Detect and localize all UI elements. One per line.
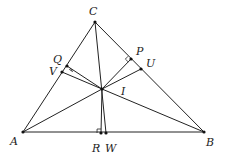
segment-BI (102, 89, 204, 132)
segment-IP (102, 59, 131, 89)
point-Q (65, 64, 68, 67)
point-A (21, 130, 24, 133)
segment-IR (101, 89, 102, 133)
segment-CW (95, 22, 106, 133)
point-I (100, 87, 103, 90)
label-W: W (105, 142, 118, 155)
label-C: C (89, 5, 98, 18)
point-C (93, 20, 96, 23)
point-P (129, 57, 132, 60)
label-P: P (135, 45, 144, 58)
segment-AI (23, 89, 102, 132)
point-V (60, 70, 63, 73)
point-R (99, 131, 102, 134)
label-U: U (146, 57, 156, 70)
label-R: R (91, 142, 100, 155)
label-I: I (120, 85, 126, 98)
segment-IV (62, 72, 102, 89)
segment-IQ (67, 66, 102, 89)
point-W (104, 131, 107, 134)
segment-BC (95, 22, 204, 132)
triangle-diagram: ABCIRWQVPU (0, 0, 225, 161)
label-B: B (205, 136, 214, 149)
label-V: V (49, 65, 58, 78)
label-A: A (9, 135, 18, 148)
right-angle-mark-P (125, 56, 128, 62)
point-U (139, 67, 142, 70)
right-angle-marks (69, 56, 128, 133)
point-B (202, 130, 205, 133)
